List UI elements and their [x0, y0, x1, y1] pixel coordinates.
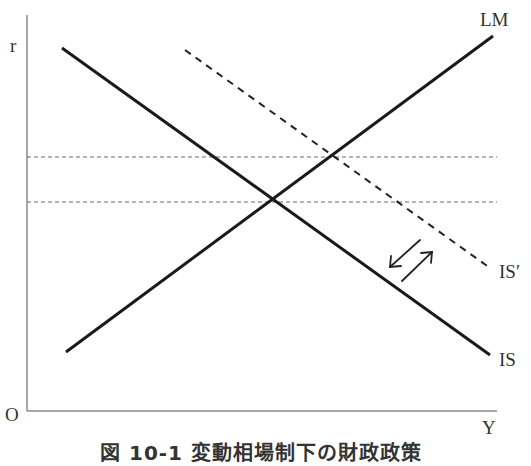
is-prime-label: IS′: [499, 262, 520, 281]
lm-label: LM: [480, 10, 509, 29]
shift-out-arrow-icon: [402, 252, 432, 281]
is-label: IS: [499, 350, 516, 369]
figure-caption: 図 10-1 変動相場制下の財政政策: [100, 437, 422, 466]
is-prime-curve: [185, 50, 490, 268]
x-axis-label: Y: [482, 418, 496, 437]
shift-back-arrow-icon: [390, 240, 420, 267]
y-axis-label: r: [10, 36, 16, 55]
origin-label: O: [5, 405, 19, 424]
lm-curve: [66, 36, 493, 352]
